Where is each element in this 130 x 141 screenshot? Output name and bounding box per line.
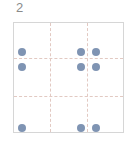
dot-marker [92,48,100,56]
dot-marker [18,48,26,56]
grid-board [13,22,124,133]
dot-marker [18,124,26,132]
dot-marker [77,124,85,132]
dot-marker [77,63,85,71]
grid-divider-horizontal-1 [14,58,123,59]
puzzle-number-label: 2 [16,0,23,16]
grid-divider-horizontal-2 [14,96,123,97]
dot-marker [92,124,100,132]
grid-divider-vertical-2 [87,23,88,132]
dot-marker [18,63,26,71]
dot-marker [92,63,100,71]
dot-marker [77,48,85,56]
grid-divider-vertical-1 [50,23,51,132]
